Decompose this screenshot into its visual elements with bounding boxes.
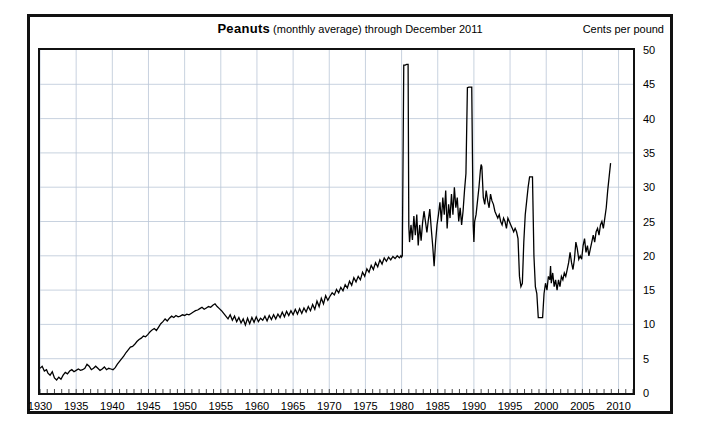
axis-tick-marks	[40, 389, 633, 393]
x-axis-tick-1935: 1935	[64, 400, 88, 412]
page-title: Peanuts (monthly average) through Decemb…	[30, 21, 670, 36]
title-rest-part: (monthly average) through December 2011	[270, 23, 483, 35]
y-axis-tick-20: 20	[643, 250, 655, 262]
y-axis-tick-30: 30	[643, 181, 655, 193]
y-axis-tick-50: 50	[643, 44, 655, 56]
x-axis-tick-1930: 1930	[28, 400, 52, 412]
y-axis-tick-0: 0	[643, 387, 649, 399]
x-axis-tick-1940: 1940	[100, 400, 124, 412]
x-axis-tick-1960: 1960	[245, 400, 269, 412]
x-axis-tick-1950: 1950	[172, 400, 196, 412]
x-axis-tick-1945: 1945	[136, 400, 160, 412]
x-axis-tick-1965: 1965	[281, 400, 305, 412]
plot-area-wrapper	[38, 48, 635, 395]
x-axis-tick-2010: 2010	[606, 400, 630, 412]
y-axis-tick-35: 35	[643, 147, 655, 159]
data-series-line	[40, 64, 611, 380]
x-axis-tick-1955: 1955	[209, 400, 233, 412]
x-axis-tick-1995: 1995	[498, 400, 522, 412]
plot-area	[38, 48, 635, 395]
y-axis-units-label: Cents per pound	[583, 23, 664, 35]
y-axis-labels: 05101520253035404550	[643, 41, 673, 403]
x-axis-tick-1970: 1970	[317, 400, 341, 412]
y-axis-tick-10: 10	[643, 318, 655, 330]
title-bold-part: Peanuts	[217, 21, 270, 36]
y-axis-tick-45: 45	[643, 78, 655, 90]
y-axis-tick-40: 40	[643, 113, 655, 125]
x-axis-tick-1975: 1975	[353, 400, 377, 412]
x-axis-labels: 1930193519401945195019551960196519701975…	[30, 400, 670, 418]
chart-frame: Peanuts (monthly average) through Decemb…	[27, 14, 673, 414]
x-axis-tick-1990: 1990	[462, 400, 486, 412]
grid-lines	[40, 50, 633, 393]
chart-header: Peanuts (monthly average) through Decemb…	[30, 17, 670, 45]
chart-svg	[40, 50, 633, 393]
y-axis-tick-25: 25	[643, 216, 655, 228]
y-axis-tick-5: 5	[643, 353, 649, 365]
x-axis-tick-1980: 1980	[389, 400, 413, 412]
x-axis-tick-1985: 1985	[425, 400, 449, 412]
x-axis-tick-2000: 2000	[534, 400, 558, 412]
x-axis-tick-2005: 2005	[570, 400, 594, 412]
y-axis-tick-15: 15	[643, 284, 655, 296]
